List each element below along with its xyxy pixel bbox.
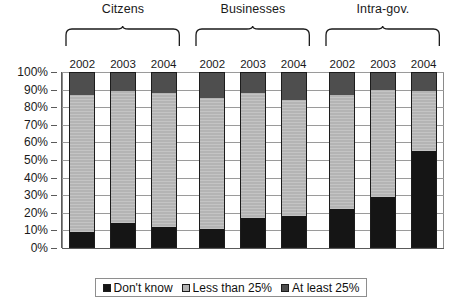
- y-tick-label: 90%: [24, 83, 48, 97]
- y-tick-mark: [51, 142, 57, 143]
- year-label-2002: 2002: [325, 58, 359, 70]
- legend-swatch-icon: [182, 284, 190, 292]
- segment-dont-know[interactable]: [329, 209, 355, 248]
- y-tick-mark: [51, 195, 57, 196]
- y-tick-label: 50%: [24, 153, 48, 167]
- segment-at-least-25[interactable]: [110, 72, 136, 91]
- segment-less-than-25[interactable]: [240, 93, 266, 218]
- y-tick-label: 70%: [24, 118, 48, 132]
- bar-citzens-2004[interactable]: [151, 72, 177, 248]
- y-tick-mark: [51, 178, 57, 179]
- legend-swatch-icon: [281, 284, 289, 292]
- segment-dont-know[interactable]: [151, 227, 177, 248]
- stacked-bar-chart: CitzensBusinessesIntra-gov. 0%10%20%30%4…: [0, 0, 456, 308]
- year-label-2002: 2002: [65, 58, 99, 70]
- segment-dont-know[interactable]: [199, 229, 225, 248]
- year-label-2004: 2004: [407, 58, 441, 70]
- segment-dont-know[interactable]: [281, 216, 307, 248]
- segment-at-least-25[interactable]: [240, 72, 266, 93]
- segment-less-than-25[interactable]: [370, 90, 396, 197]
- y-tick-label: 100%: [17, 65, 48, 79]
- legend-label: Less than 25%: [193, 281, 272, 295]
- y-tick-mark: [51, 248, 57, 249]
- segment-dont-know[interactable]: [110, 223, 136, 248]
- y-tick-mark: [51, 213, 57, 214]
- y-axis: 0%10%20%30%40%50%60%70%80%90%100%: [0, 72, 62, 248]
- bar-citzens-2003[interactable]: [110, 72, 136, 248]
- plot-area: [62, 72, 444, 248]
- bar-businesses-2003[interactable]: [240, 72, 266, 248]
- segment-less-than-25[interactable]: [199, 98, 225, 228]
- y-tick-label: 10%: [24, 223, 48, 237]
- y-tick-label: 20%: [24, 206, 48, 220]
- legend-swatch-icon: [103, 284, 111, 292]
- gridline-0: [62, 248, 444, 249]
- group-intragov: Intra-gov.: [325, 0, 440, 60]
- legend-item-less-than-25[interactable]: Less than 25%: [182, 281, 272, 295]
- chart-legend: Don't knowLess than 25%At least 25%: [95, 278, 367, 297]
- bar-businesses-2004[interactable]: [281, 72, 307, 248]
- y-tick-mark: [51, 160, 57, 161]
- segment-at-least-25[interactable]: [281, 72, 307, 100]
- year-label-2002: 2002: [195, 58, 229, 70]
- segment-less-than-25[interactable]: [110, 91, 136, 223]
- segment-less-than-25[interactable]: [281, 100, 307, 216]
- bar-intragov-2002[interactable]: [329, 72, 355, 248]
- segment-at-least-25[interactable]: [69, 72, 95, 95]
- year-label-2004: 2004: [277, 58, 311, 70]
- segment-dont-know[interactable]: [69, 232, 95, 248]
- y-tick-label: 40%: [24, 171, 48, 185]
- segment-less-than-25[interactable]: [411, 91, 437, 151]
- segment-less-than-25[interactable]: [151, 93, 177, 227]
- segment-at-least-25[interactable]: [370, 72, 396, 90]
- group-brace: [65, 26, 180, 46]
- y-tick-mark: [51, 230, 57, 231]
- segment-dont-know[interactable]: [370, 197, 396, 248]
- bar-intragov-2003[interactable]: [370, 72, 396, 248]
- bar-intragov-2004[interactable]: [411, 72, 437, 248]
- bar-businesses-2002[interactable]: [199, 72, 225, 248]
- segment-dont-know[interactable]: [411, 151, 437, 248]
- y-tick-mark: [51, 72, 57, 73]
- group-businesses: Businesses: [195, 0, 310, 60]
- y-tick-label: 80%: [24, 100, 48, 114]
- group-header-band: CitzensBusinessesIntra-gov.: [0, 0, 456, 60]
- legend-item-at-least-25[interactable]: At least 25%: [281, 281, 359, 295]
- group-label: Businesses: [195, 2, 310, 16]
- group-citzens: Citzens: [65, 0, 180, 60]
- y-tick-mark: [51, 107, 57, 108]
- y-tick-label: 30%: [24, 188, 48, 202]
- y-tick-mark: [51, 90, 57, 91]
- group-label: Citzens: [65, 2, 180, 16]
- segment-at-least-25[interactable]: [151, 72, 177, 93]
- year-label-2003: 2003: [106, 58, 140, 70]
- legend-label: At least 25%: [292, 281, 359, 295]
- segment-less-than-25[interactable]: [329, 95, 355, 209]
- segment-at-least-25[interactable]: [329, 72, 355, 95]
- year-label-2004: 2004: [147, 58, 181, 70]
- legend-item-don-t-know[interactable]: Don't know: [103, 281, 173, 295]
- group-brace: [325, 26, 440, 46]
- y-tick-label: 0%: [31, 241, 48, 255]
- year-label-2003: 2003: [236, 58, 270, 70]
- segment-at-least-25[interactable]: [199, 72, 225, 98]
- segment-at-least-25[interactable]: [411, 72, 437, 91]
- y-tick-mark: [51, 125, 57, 126]
- group-label: Intra-gov.: [325, 2, 440, 16]
- legend-label: Don't know: [114, 281, 173, 295]
- segment-dont-know[interactable]: [240, 218, 266, 248]
- segment-less-than-25[interactable]: [69, 95, 95, 232]
- year-label-2003: 2003: [366, 58, 400, 70]
- y-tick-label: 60%: [24, 135, 48, 149]
- bar-citzens-2002[interactable]: [69, 72, 95, 248]
- group-brace: [195, 26, 310, 46]
